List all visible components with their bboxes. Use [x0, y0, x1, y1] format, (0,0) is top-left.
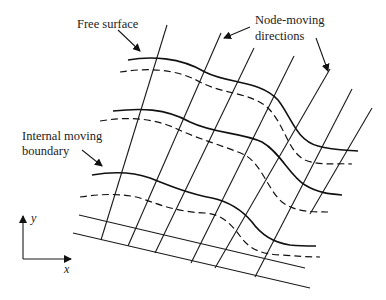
direction-line	[255, 89, 352, 277]
internal-boundary-label-line2: boundary	[22, 144, 70, 158]
node-moving-label-line2: directions	[255, 29, 304, 43]
direction-line	[128, 33, 221, 246]
internal-boundary-arrow	[82, 150, 102, 166]
node-moving-label-line1: Node-moving	[255, 13, 325, 27]
node-moving-arrow-right	[316, 38, 328, 71]
direction-line	[310, 108, 372, 214]
y-axis-label: y	[30, 211, 37, 225]
mesh-diagram: Free surface Node-moving directions Inte…	[0, 0, 386, 300]
internal-boundary-label-line1: Internal moving	[22, 129, 103, 143]
free-surface-arrow	[118, 30, 140, 51]
direction-line	[101, 25, 167, 240]
free-surface-label: Free surface	[77, 17, 139, 31]
node-moving-arrow-left	[224, 27, 250, 38]
interface-curve	[113, 109, 342, 195]
free-surface-dashed-curve	[120, 70, 352, 164]
node-moving-direction-lines	[101, 25, 372, 277]
internal-moving-boundary-curve	[92, 173, 316, 246]
axes-indicator: y x	[23, 211, 71, 276]
x-axis-label: x	[63, 262, 70, 276]
